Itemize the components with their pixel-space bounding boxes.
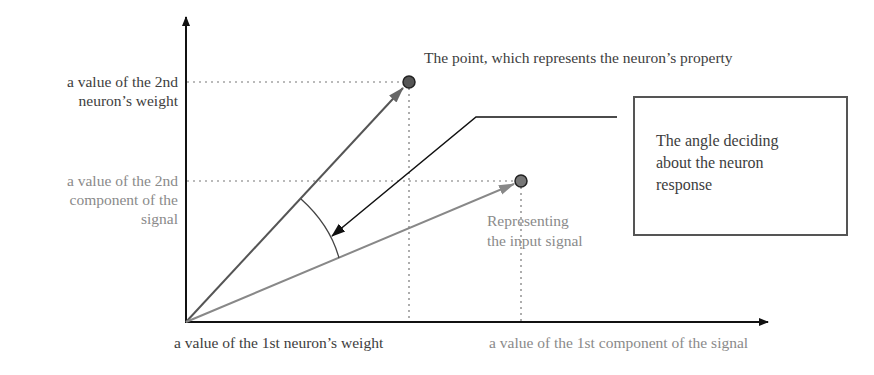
input-signal-point: [515, 175, 527, 187]
angle-arc: [301, 199, 339, 258]
y-label-weight-2nd: a value of the 2nd neuron’s weight: [0, 72, 178, 110]
signal-vector: [186, 184, 514, 322]
input-signal-annotation: Representing the input signal: [487, 211, 583, 251]
x-label-weight-1st: a value of the 1st neuron’s weight: [174, 333, 383, 352]
neuron-weight-point: [403, 76, 415, 88]
angle-description-text: The angle deciding about the neuron resp…: [656, 130, 836, 196]
x-label-signal-1st: a value of the 1st component of the sign…: [489, 333, 748, 352]
y-label-signal-2nd: a value of the 2nd component of the sign…: [0, 171, 178, 228]
neuron-point-annotation: The point, which represents the neuron’s…: [424, 48, 733, 67]
